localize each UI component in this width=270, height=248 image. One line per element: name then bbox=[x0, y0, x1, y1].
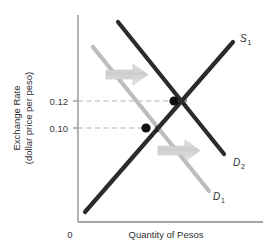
y-tick-label-0-10: 0.10 bbox=[50, 123, 69, 134]
y-tick-label-0-12: 0.12 bbox=[50, 96, 69, 107]
y-axis-title-line2: (dollar price per peso) bbox=[23, 72, 34, 164]
demand-shift-arrow-lower bbox=[158, 140, 200, 161]
curve-label-d2: D 2 bbox=[233, 157, 245, 170]
chart-canvas: 0.12 0.10 0 Quantity of Pesos Exchange R… bbox=[0, 0, 270, 248]
equilibrium-point-1-label: 1 bbox=[154, 123, 159, 134]
curve-label-d1: D 1 bbox=[213, 191, 225, 204]
y-axis-title-line1: Exchange Rate bbox=[11, 86, 22, 151]
curve-d1-demand-original bbox=[93, 47, 209, 191]
curve-label-s1: S 1 bbox=[240, 33, 252, 46]
exchange-rate-supply-demand-chart: 0.12 0.10 0 Quantity of Pesos Exchange R… bbox=[0, 0, 270, 248]
equilibrium-point-2-label: 2 bbox=[182, 96, 187, 107]
curve-label-s1-subscript: 1 bbox=[248, 39, 252, 46]
curve-d2-demand-new bbox=[118, 22, 224, 154]
equilibrium-point-2-marker bbox=[169, 96, 178, 105]
curve-label-d2-subscript: 2 bbox=[241, 163, 245, 170]
curve-label-s1-text: S bbox=[240, 33, 247, 44]
curve-label-d2-text: D bbox=[233, 157, 240, 168]
curve-label-d1-text: D bbox=[213, 191, 220, 202]
demand-shift-arrow-upper bbox=[106, 64, 148, 85]
x-axis-title: Quantity of Pesos bbox=[129, 229, 204, 240]
equilibrium-point-1-marker bbox=[141, 123, 150, 132]
curve-label-d1-subscript: 1 bbox=[221, 197, 225, 204]
origin-label: 0 bbox=[67, 229, 72, 240]
